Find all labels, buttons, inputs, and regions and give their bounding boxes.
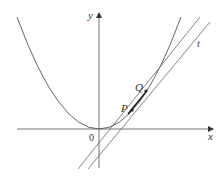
y-axis-label: y: [87, 9, 93, 21]
point-p: [130, 108, 133, 111]
point-q-label: Q: [135, 81, 143, 93]
tangent-label: t: [197, 38, 200, 49]
point-p-label: P: [120, 102, 128, 114]
x-axis-label: x: [207, 130, 213, 142]
origin-label: 0: [89, 132, 94, 143]
point-q: [144, 89, 147, 92]
secant-line-pq: [78, 17, 200, 169]
diagram-canvas: y x 0 P Q t: [0, 0, 223, 178]
tangent-line-t: [88, 22, 210, 169]
